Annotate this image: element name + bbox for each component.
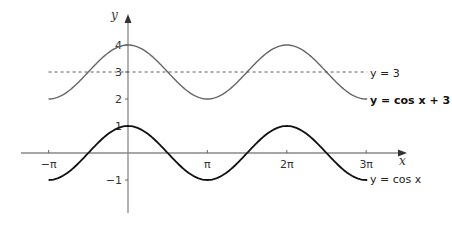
y-axis-label: y <box>110 8 118 22</box>
x-axis-label: x <box>399 154 406 168</box>
x-tick-label: −π <box>41 158 57 171</box>
lower-curve-label: y = cos x <box>370 173 422 186</box>
x-tick-label: π <box>204 158 211 171</box>
axes: −ππ2π3π4321−1 <box>21 14 407 213</box>
y-tick-label: −1 <box>106 174 122 187</box>
upper-curve-label: y = cos x + 3 <box>370 94 450 107</box>
dashed-line-label: y = 3 <box>370 67 400 80</box>
cosine-chart: −ππ2π3π4321−1 y x y = 3 y = cos x + 3 y … <box>0 0 452 227</box>
y-tick-label: 2 <box>115 93 122 106</box>
y-axis-arrow-icon <box>125 14 132 23</box>
x-tick-label: 2π <box>280 158 294 171</box>
x-tick-label: 3π <box>359 158 373 171</box>
